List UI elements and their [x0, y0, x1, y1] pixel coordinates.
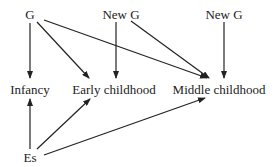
node-early-childhood: Early childhood — [72, 83, 155, 96]
node-new-g-1: New G — [102, 8, 139, 21]
node-middle-childhood: Middle childhood — [173, 83, 266, 96]
node-g: G — [25, 8, 34, 21]
node-new-g-2: New G — [205, 8, 242, 21]
edge-newg1-middle — [131, 21, 209, 78]
edge-g-early — [37, 22, 89, 78]
path-diagram: G New G New G Infancy Early childhood Mi… — [0, 0, 276, 167]
edge-es-middle — [44, 98, 205, 155]
node-infancy: Infancy — [10, 83, 50, 96]
node-es: Es — [24, 151, 37, 164]
edge-g-middle — [44, 20, 207, 78]
